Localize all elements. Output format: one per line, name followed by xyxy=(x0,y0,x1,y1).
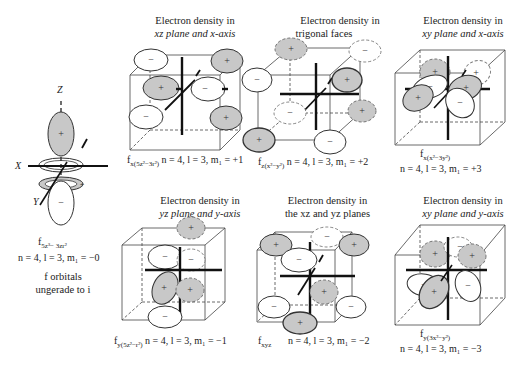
svg-text:−: − xyxy=(162,251,168,262)
svg-text:+: + xyxy=(297,317,303,328)
svg-text:−: − xyxy=(324,231,330,242)
x-axis-label: X xyxy=(15,160,21,171)
svg-text:+: + xyxy=(80,180,85,189)
svg-text:+: + xyxy=(161,282,167,293)
svg-text:−: − xyxy=(143,111,149,122)
svg-text:−: − xyxy=(287,107,293,118)
panel5-orbital-label: fxyz n = 4, l = 3, m₁ = −2 xyxy=(258,335,370,351)
svg-text:+: + xyxy=(273,239,279,250)
svg-text:+: + xyxy=(469,250,475,261)
panel2-orbital-label: fz(x²−y²) n = 4, l = 3, m₁ = +2 xyxy=(258,156,368,172)
svg-text:−: − xyxy=(296,254,302,265)
panel2-title-line2: trigonal faces xyxy=(284,28,364,40)
svg-text:+: + xyxy=(415,92,421,103)
svg-text:+: + xyxy=(223,112,229,123)
panel6-title-line1: Electron density in xyxy=(408,195,518,207)
f-orbitals-diagram: .edge{fill:none;stroke:#444;stroke-width… xyxy=(0,0,518,368)
svg-text:−: − xyxy=(148,54,154,65)
panel6-orbital-label: fy(3x²−y²) xyxy=(420,328,450,344)
panel3-quantum-numbers: n = 4, l = 3, m₁ = +3 xyxy=(400,163,482,175)
fz3-quantum-numbers: n = 4, l = 3, m₁ = −0 xyxy=(18,252,100,264)
panel6-title-line2: xy plane and y-axis xyxy=(408,208,518,220)
svg-text:+: + xyxy=(188,222,194,233)
panel1-title-line1: Electron density in xyxy=(140,15,250,27)
panel-fy5z2: + − − + + − xyxy=(122,217,225,328)
panel3-title-line2: xy plane and x-axis xyxy=(408,28,518,40)
svg-text:+: + xyxy=(321,286,327,297)
fz3-orbital: + + − xyxy=(28,101,108,225)
panel3-orbital-label: fx(x²−3y²) xyxy=(420,148,450,164)
svg-text:+: + xyxy=(224,55,230,66)
z-axis-label: Z xyxy=(57,84,63,95)
panel4-orbital-label: fy(5z²−r²) n = 4, l = 3, m₁ = −1 xyxy=(114,335,227,351)
svg-text:+: + xyxy=(158,82,164,93)
svg-text:−: − xyxy=(58,197,64,208)
svg-text:−: − xyxy=(254,74,260,85)
note-line2: ungerade to i xyxy=(24,284,102,296)
panel5-title-line2: the xz and yz planes xyxy=(270,208,385,220)
svg-text:+: + xyxy=(187,284,193,295)
svg-text:−: − xyxy=(188,254,194,265)
panel5-title-line1: Electron density in xyxy=(270,195,385,207)
svg-text:−: − xyxy=(362,45,368,56)
svg-text:−: − xyxy=(327,136,333,147)
panel-fx5z2: − + + − − + xyxy=(129,49,243,150)
panel-fxx23y2: + + − + + − xyxy=(395,50,505,145)
svg-text:+: + xyxy=(288,43,294,54)
svg-text:+: + xyxy=(256,134,262,145)
panel1-orbital-label: fx(5z²−3r²) n = 4, l = 3, m₁ = +1 xyxy=(127,154,243,170)
panel-fzx2y2: + − − + − + + − xyxy=(242,38,381,154)
panel4-title-line1: Electron density in xyxy=(145,195,255,207)
svg-text:−: − xyxy=(457,97,463,108)
y-axis-label: Y xyxy=(33,196,39,207)
fz3-orbital-label: f5z³− 3zr² xyxy=(38,236,67,252)
svg-text:+: + xyxy=(432,248,438,259)
panel4-title-line2: yz plane and y-axis xyxy=(145,208,255,220)
svg-text:+: + xyxy=(58,128,64,139)
svg-text:−: − xyxy=(348,301,354,312)
svg-text:−: − xyxy=(162,311,168,322)
svg-text:+: + xyxy=(351,239,357,250)
panel6-quantum-numbers: n = 4, l = 3, m₁ = −3 xyxy=(400,343,482,355)
svg-text:−: − xyxy=(202,83,208,94)
svg-text:+: + xyxy=(359,105,365,116)
panel-fxyz: − + + − + − − + xyxy=(257,227,369,334)
svg-text:−: − xyxy=(271,301,277,312)
panel3-title-line1: Electron density in xyxy=(408,15,518,27)
svg-text:+: + xyxy=(344,74,350,85)
panel2-title-line1: Electron density in xyxy=(290,15,390,27)
note-line1: f orbitals xyxy=(24,271,102,283)
svg-text:−: − xyxy=(465,280,471,291)
panel-fy3x2y2: + − + − + − xyxy=(395,225,505,325)
svg-text:+: + xyxy=(431,286,437,297)
panel1-title-line2: xz plane and x-axis xyxy=(140,28,250,40)
